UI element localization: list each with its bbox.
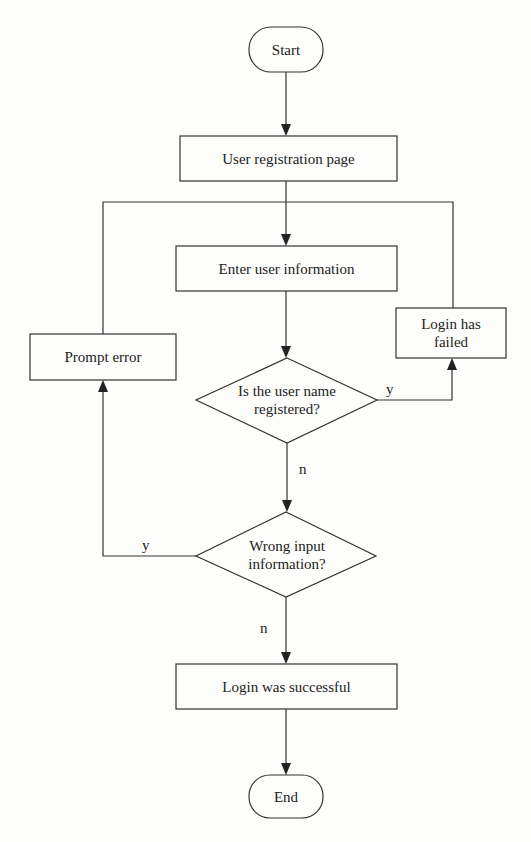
success-label: Login was successful xyxy=(176,664,397,709)
registration-label: User registration page xyxy=(180,136,397,181)
login-failed-line2: failed xyxy=(434,333,468,351)
wrong-input-line2: information? xyxy=(248,555,325,573)
enter-info-label: Enter user information xyxy=(176,246,397,291)
edge-label-wrong-no: n xyxy=(260,620,268,637)
wrong-input-question: Wrong input information? xyxy=(216,535,358,575)
edge-label-registered-no: n xyxy=(299,461,307,478)
end-label: End xyxy=(249,775,323,818)
wrong-input-line1: Wrong input xyxy=(249,537,325,555)
edge-label-wrong-yes: y xyxy=(142,537,150,554)
login-failed-label: Login has failed xyxy=(396,308,506,358)
registered-line2: registered? xyxy=(254,400,320,418)
start-label: Start xyxy=(249,27,323,72)
edge-label-registered-yes: y xyxy=(386,381,394,398)
flowchart-canvas xyxy=(0,0,531,842)
login-failed-line1: Login has xyxy=(421,315,481,333)
prompt-error-label: Prompt error xyxy=(30,334,176,380)
registered-question: Is the user name registered? xyxy=(216,380,358,420)
registered-line1: Is the user name xyxy=(238,382,336,400)
